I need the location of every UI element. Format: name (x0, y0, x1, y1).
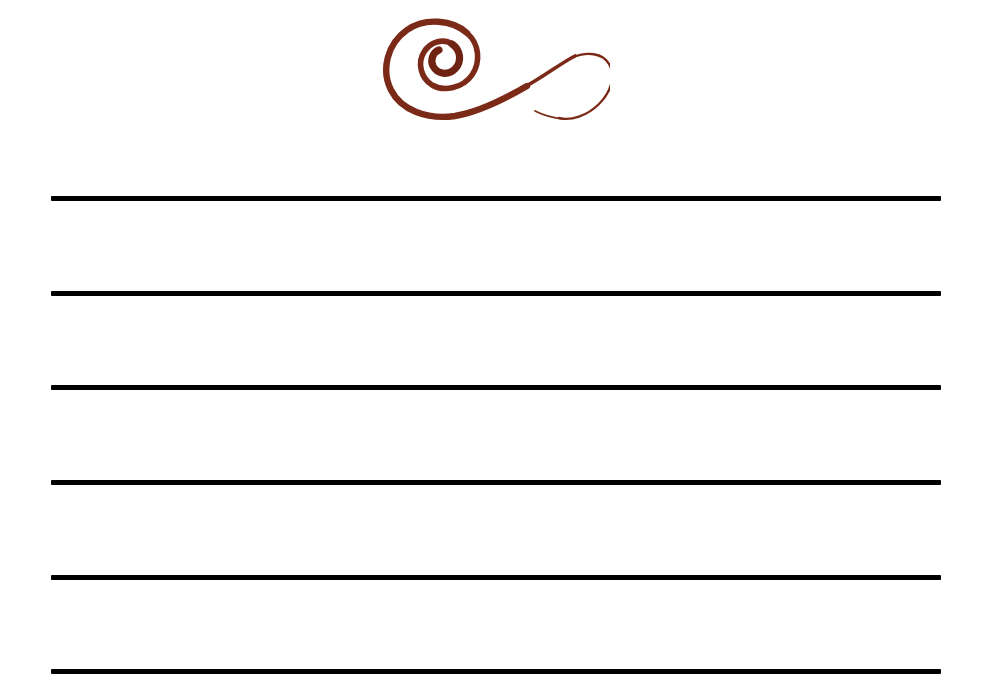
rule-line-5 (51, 575, 941, 580)
rule-line-1 (51, 196, 941, 201)
lined-stationery-sheet (0, 0, 989, 675)
rule-line-4 (51, 480, 941, 485)
calligraphic-flourish-icon (375, 8, 610, 130)
rule-line-3 (51, 385, 941, 390)
rule-line-6 (51, 669, 941, 674)
rule-line-2 (51, 291, 941, 296)
